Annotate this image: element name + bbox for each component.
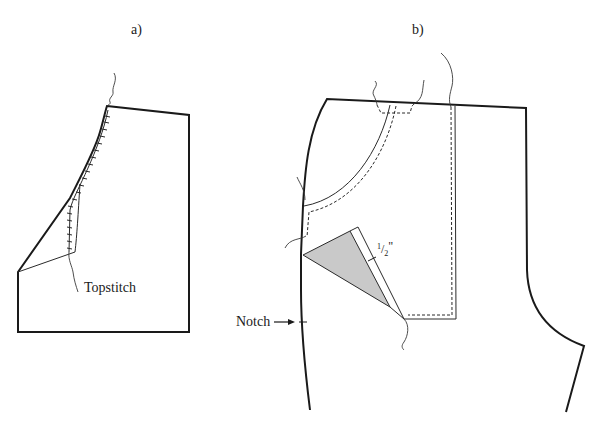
panel-b-notch-arrow-head [288, 319, 295, 325]
panel-a-thread-bottom [69, 252, 78, 292]
panel-a-outline [18, 106, 189, 332]
pattern-diagram: a) [0, 0, 603, 426]
panel-b-notch-label: Notch [236, 314, 270, 329]
panel-b-thread-top-right [441, 53, 453, 107]
panel-a-topstitch-label: Topstitch [84, 280, 136, 295]
panel-a: a) [18, 22, 189, 332]
panel-a-label: a) [131, 22, 142, 38]
panel-b-pocket-curve-stitch [307, 106, 396, 237]
panel-a-topstitch-line [69, 110, 108, 252]
panel-b-label: b) [412, 22, 424, 38]
panel-b: b) 1/2" Notch [236, 22, 584, 412]
panel-b-pocket-bag-stitch [408, 107, 452, 315]
panel-b-thread-side-lower [285, 236, 306, 248]
panel-a-topstitch-marks [67, 116, 110, 249]
panel-a-thread-top [107, 73, 115, 106]
panel-b-thread-bottom [402, 319, 408, 350]
panel-b-pocket-bag-outline [404, 106, 456, 319]
panel-b-seam-allowance-label: 1/2" [377, 239, 393, 258]
